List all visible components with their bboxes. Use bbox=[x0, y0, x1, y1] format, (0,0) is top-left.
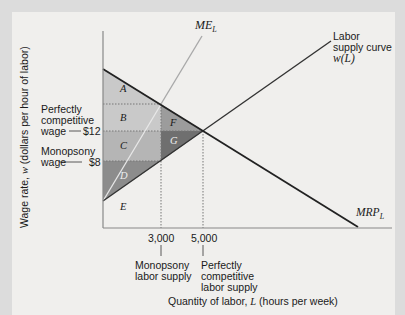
region-b bbox=[103, 104, 161, 131]
label-region-d: D bbox=[120, 170, 128, 181]
label-monopsony-wage: Monopsony wage bbox=[41, 146, 95, 168]
region-c bbox=[103, 131, 161, 161]
label-me-curve: MEL bbox=[195, 20, 217, 35]
label-region-a: A bbox=[120, 83, 126, 94]
label-region-g: G bbox=[170, 135, 178, 146]
label-region-f: F bbox=[170, 117, 176, 128]
me-curve-outer bbox=[161, 36, 202, 104]
y-axis-title: Wage rate, w (dollars per hour of labor) bbox=[18, 46, 30, 228]
label-region-c: C bbox=[120, 140, 127, 151]
tick-label-5000: 5,000 bbox=[191, 233, 217, 244]
label-monopsony-supply: Monopsony labor supply bbox=[135, 260, 192, 282]
label-region-e: E bbox=[120, 201, 126, 212]
label-region-b: B bbox=[120, 112, 126, 123]
value-competitive-wage: $12 bbox=[83, 126, 101, 137]
tick-label-3000: 3,000 bbox=[148, 233, 174, 244]
x-axis-title: Quantity of labor, L (hours per week) bbox=[168, 296, 338, 307]
label-supply-curve: Labor supply curve w(L) bbox=[333, 31, 392, 64]
label-mrp-curve: MRPL bbox=[356, 207, 384, 222]
label-competitive-supply: Perfectly competitive labor supply bbox=[201, 260, 258, 293]
value-monopsony-wage: $8 bbox=[89, 157, 101, 168]
